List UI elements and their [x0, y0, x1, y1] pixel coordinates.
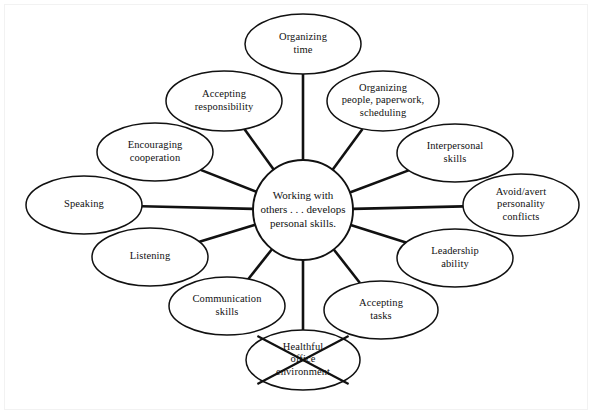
spoke-line-communication-skills [248, 249, 272, 279]
spoke-line-speaking [142, 206, 253, 209]
node-speaking[interactable]: Speaking [26, 176, 142, 234]
node-label-line: Organizing [279, 31, 328, 42]
node-label-line: Encouraging [128, 139, 183, 150]
node-label-line: Interpersonal [427, 140, 484, 151]
center-label-line: Working with [273, 189, 334, 201]
node-encouraging-cooperation[interactable]: Encouragingcooperation [97, 123, 213, 181]
node-label-line: Listening [130, 250, 171, 261]
node-accepting-responsibility[interactable]: Acceptingresponsibility [166, 71, 282, 131]
node-label-line: Speaking [64, 198, 105, 209]
node-label-line: skills [216, 306, 239, 317]
center-label-line: personal skills. [270, 217, 336, 229]
node-label-line: ability [441, 258, 469, 269]
node-label-line: Accepting [359, 297, 404, 308]
diagram-canvas: OrganizingtimeOrganizingpeople, paperwor… [0, 0, 592, 414]
spoke-line-leadership-ability [351, 225, 406, 242]
node-listening[interactable]: Listening [92, 228, 208, 286]
spoke-line-accepting-tasks [334, 249, 360, 283]
spoke-line-organizing-people-paperwork-scheduling [333, 129, 363, 170]
node-organizing-people-paperwork-scheduling[interactable]: Organizingpeople, paperwork,scheduling [327, 71, 439, 131]
node-communication-skills[interactable]: Communicationskills [169, 277, 285, 335]
cluster-diagram: OrganizingtimeOrganizingpeople, paperwor… [0, 0, 592, 414]
node-label-line: Avoid/avert [496, 186, 546, 197]
node-label-line: Accepting [202, 88, 247, 99]
node-interpersonal-skills[interactable]: Interpersonalskills [397, 124, 513, 182]
node-label-line: personality [497, 198, 545, 209]
spoke-line-interpersonal-skills [350, 170, 409, 192]
node-leadership-ability[interactable]: Leadershipability [397, 229, 513, 287]
node-label-line: people, paperwork, [342, 94, 425, 105]
center-label-line: others . . . develops [260, 203, 345, 215]
spoke-line-avoid-avert-personality-conflicts [353, 206, 463, 209]
node-organizing-time[interactable]: Organizingtime [245, 14, 361, 74]
spoke-line-encouraging-cooperation [201, 170, 257, 192]
node-label-line: Communication [193, 293, 263, 304]
node-label-line: environment [276, 366, 330, 377]
spoke-line-accepting-responsibility [244, 129, 273, 169]
node-label-line: Leadership [431, 245, 479, 256]
center-node[interactable]: Working withothers . . . developspersona… [253, 160, 353, 260]
node-label-line: Healthful [283, 341, 324, 352]
node-label-line: responsibility [195, 101, 254, 112]
center-node-group: Working withothers . . . developspersona… [253, 160, 353, 260]
node-label-line: cooperation [130, 152, 181, 163]
node-label-line: skills [444, 153, 467, 164]
node-label-line: time [293, 44, 312, 55]
node-label-line: tasks [370, 310, 392, 321]
spoke-line-listening [199, 225, 255, 242]
node-healthful-office-environment[interactable]: Healthfulofficeenvironment [246, 330, 360, 390]
node-label-line: conflicts [502, 211, 539, 222]
node-avoid-avert-personality-conflicts[interactable]: Avoid/avertpersonalityconflicts [463, 174, 579, 236]
node-label-line: scheduling [360, 107, 407, 118]
node-label-line: Organizing [359, 82, 408, 93]
node-accepting-tasks[interactable]: Acceptingtasks [324, 281, 438, 339]
